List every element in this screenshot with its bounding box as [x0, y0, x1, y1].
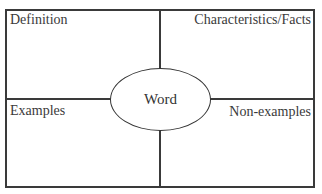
quadrant-characteristics-label: Characteristics/Facts [194, 12, 311, 28]
quadrant-non-examples-label: Non-examples [229, 104, 311, 120]
quadrant-examples-label: Examples [10, 103, 65, 119]
center-word-label: Word [144, 91, 177, 108]
quadrant-definition-label: Definition [10, 12, 68, 28]
center-word-ellipse: Word [110, 68, 211, 131]
